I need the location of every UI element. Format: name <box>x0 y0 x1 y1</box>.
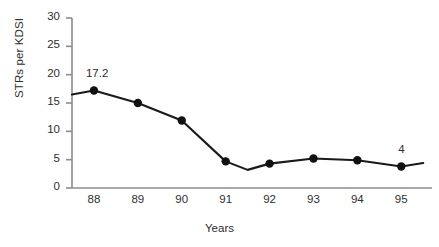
chart-container: STRs per KDSI Years 0 5 10 15 20 25 30 8… <box>0 0 439 247</box>
y-axis-ticks <box>66 18 72 188</box>
data-point-marker <box>221 157 229 165</box>
data-point-marker <box>90 86 98 94</box>
data-point-marker <box>309 154 317 162</box>
data-point-marker <box>397 162 405 170</box>
data-line <box>72 91 423 170</box>
data-point-marker <box>265 159 273 167</box>
data-point-marker <box>178 116 186 124</box>
plot-area <box>0 0 439 247</box>
data-point-marker <box>134 99 142 107</box>
data-point-marker <box>353 156 361 164</box>
data-point-markers <box>90 86 406 170</box>
